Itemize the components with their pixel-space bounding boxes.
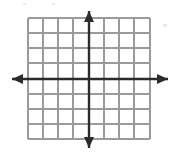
scan-speck	[163, 24, 167, 27]
scan-speck	[23, 3, 26, 5]
coordinate-plane-svg	[0, 0, 174, 155]
coordinate-grid-figure	[0, 0, 174, 155]
scan-speck	[52, 3, 55, 5]
figure-background	[0, 0, 174, 155]
